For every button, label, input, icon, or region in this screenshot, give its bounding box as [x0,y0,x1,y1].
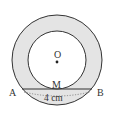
label-center-o: O [54,49,61,60]
label-chord-length: 4 cm [44,93,63,103]
diagram-canvas: O M A B 4 cm [0,0,115,121]
annulus-diagram: O M A B 4 cm [0,0,115,121]
center-point [56,61,59,64]
label-tangent-m: M [52,79,61,90]
label-point-b: B [97,87,104,98]
label-point-a: A [9,87,17,98]
